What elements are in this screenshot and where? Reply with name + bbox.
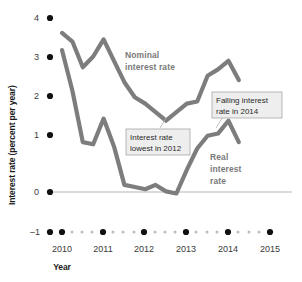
x-tick-dot-minor	[174, 231, 177, 234]
annotation-lowest-2012-line2: lowest in 2012	[130, 144, 182, 153]
x-tick-dot-minor	[248, 231, 251, 234]
x-tick-dot-2014	[225, 229, 231, 235]
x-tick-label-2011: 2011	[93, 244, 112, 254]
x-tick-dot-minor	[216, 231, 219, 234]
y-axis-ticks: 4 3 2 1 0 –1	[30, 13, 53, 237]
nominal-series-label: Nominal interest rate	[125, 50, 175, 72]
y-tick-dot-1	[47, 132, 53, 138]
y-tick-dot-2	[47, 93, 53, 99]
y-axis-title: Interest rate (percent per year)	[7, 85, 17, 205]
y-tick-dot-3	[47, 54, 53, 60]
real-label-line2: interest	[210, 164, 242, 174]
y-tick-label-4: 4	[34, 13, 39, 23]
x-tick-dot-minor	[258, 231, 261, 234]
x-tick-dot-minor	[122, 231, 125, 234]
x-axis-title: Year	[53, 262, 71, 272]
x-tick-dot-minor	[112, 231, 115, 234]
y-tick-label-3: 3	[34, 52, 39, 62]
x-tick-label-2013: 2013	[176, 244, 196, 254]
y-tick-label-1: 1	[34, 130, 39, 140]
x-axis-labels: 2010 2011 2012 2013 2014 2015	[52, 244, 280, 254]
interest-rate-chart: Interest rate (percent per year) 4 3 2 1…	[0, 0, 302, 282]
x-tick-label-2010: 2010	[52, 244, 72, 254]
x-tick-dot-2011	[100, 229, 106, 235]
x-tick-label-2014: 2014	[218, 244, 238, 254]
x-axis-tick-dots	[59, 229, 273, 235]
x-tick-dot-minor	[71, 231, 74, 234]
x-tick-dot-2010	[59, 229, 65, 235]
x-tick-dot-minor	[206, 231, 209, 234]
annotation-lowest-2012: Interest rate lowest in 2012	[126, 118, 190, 155]
nominal-label-line2: interest rate	[125, 62, 175, 72]
annotation-lowest-2012-line1: Interest rate	[130, 133, 173, 142]
x-tick-dot-minor	[237, 231, 240, 234]
y-tick-label-minus1: –1	[30, 227, 40, 237]
x-tick-label-2015: 2015	[260, 244, 280, 254]
x-tick-dot-minor	[154, 231, 157, 234]
x-tick-dot-minor	[164, 231, 167, 234]
x-tick-dot-minor	[91, 231, 94, 234]
x-tick-dot-2013	[183, 229, 189, 235]
x-tick-dot-minor	[195, 231, 198, 234]
y-tick-dot-4	[47, 15, 53, 21]
y-tick-label-0: 0	[34, 187, 39, 197]
real-series-label: Real interest rate	[210, 152, 242, 186]
real-label-line1: Real	[210, 152, 228, 162]
x-tick-dot-2012	[141, 229, 147, 235]
annotation-falling-2014-line1: Falling interest	[216, 96, 269, 105]
x-tick-dot-minor	[81, 231, 84, 234]
x-tick-label-2012: 2012	[134, 244, 154, 254]
annotation-falling-2014-line2: rate in 2014	[216, 107, 259, 116]
y-tick-dot-0	[47, 189, 53, 195]
y-tick-dot-minus1	[47, 229, 53, 235]
x-tick-dot-minor	[133, 231, 136, 234]
real-label-line3: rate	[210, 176, 226, 186]
nominal-label-line1: Nominal	[125, 50, 159, 60]
x-tick-dot-2015	[267, 229, 273, 235]
y-tick-label-2: 2	[34, 91, 39, 101]
annotation-falling-2014: Falling interest rate in 2014	[212, 92, 282, 128]
